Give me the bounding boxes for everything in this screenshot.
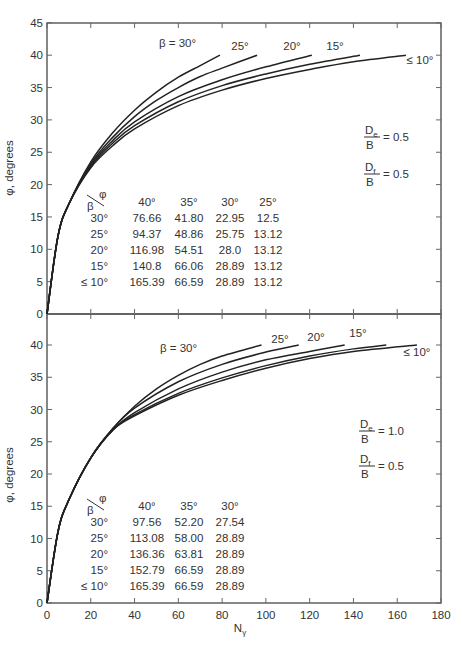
svg-text:= 0.5: = 0.5: [383, 131, 409, 143]
table-cell: 28.0: [219, 244, 241, 256]
curve-1: [47, 345, 299, 603]
y-tick-label: 5: [37, 565, 43, 577]
table-column-header: 35°: [180, 500, 197, 512]
table-cell: 54.51: [175, 244, 204, 256]
table-cell: 63.81: [175, 548, 204, 560]
table-cell: 52.20: [175, 516, 204, 528]
x-tick-label: 180: [431, 609, 450, 621]
y-tick-label: 30: [30, 404, 43, 416]
y-axis-label-bottom: φ, degrees: [3, 447, 15, 503]
x-tick-label: 40: [128, 609, 141, 621]
y-axis-label-top: φ, degrees: [3, 140, 15, 196]
table-column-header: 35°: [180, 196, 197, 208]
table-cell: 165.39: [129, 580, 164, 592]
curve-label: β = 30°: [160, 342, 197, 354]
y-tick-label: 40: [30, 339, 43, 351]
y-tick-label: 25: [30, 436, 43, 448]
table-row-beta: 20°: [91, 548, 108, 560]
y-tick-label: 30: [30, 114, 43, 126]
x-tick-label: 80: [216, 609, 229, 621]
table-cell: 12.5: [257, 212, 279, 224]
table-cell: 94.37: [133, 228, 162, 240]
x-tick-label: 0: [44, 609, 50, 621]
y-tick-label: 35: [30, 82, 43, 94]
table-row-beta: ≤ 10°: [81, 276, 108, 288]
svg-text:= 1.0: = 1.0: [378, 425, 404, 437]
table-cell: 165.39: [129, 276, 164, 288]
y-tick-label: 10: [30, 533, 43, 545]
curve-label: 25°: [271, 333, 288, 345]
y-tick-label: 45: [30, 17, 43, 29]
svg-text:= 0.5: = 0.5: [378, 460, 404, 472]
table-cell: 27.54: [216, 516, 245, 528]
table-cell: 13.12: [254, 260, 283, 272]
svg-text:B: B: [366, 176, 374, 188]
table-cell: 66.06: [175, 260, 204, 272]
table-cell: 66.59: [175, 580, 204, 592]
table-column-header: 40°: [138, 196, 155, 208]
table-column-header: 25°: [259, 196, 276, 208]
curve-label: β = 30°: [159, 37, 196, 49]
table-column-header: 30°: [221, 500, 238, 512]
curve-label: ≤ 10°: [407, 54, 434, 66]
table-cell: 28.89: [216, 564, 245, 576]
y-tick-label: 15: [30, 211, 43, 223]
table-row-beta: 25°: [91, 532, 108, 544]
curve-label: 15°: [349, 327, 366, 339]
curve-label: 15°: [326, 40, 343, 52]
x-axis-label: Nγ: [234, 622, 246, 637]
table-row-beta: 20°: [91, 244, 108, 256]
table-cell: 13.12: [254, 228, 283, 240]
curve-labels: β = 30°25°20°15°≤ 10°β = 30°25°20°15°≤ 1…: [159, 37, 433, 358]
x-tick-label: 120: [300, 609, 319, 621]
ratio-annotations: DeB= 0.5DfB= 0.5DeB= 1.0DfB= 0.5: [359, 124, 409, 480]
table-cell: 116.98: [130, 244, 164, 256]
table-cell: 140.8: [133, 260, 162, 272]
table-row-beta: 15°: [91, 260, 108, 272]
curve-label: 20°: [307, 331, 324, 343]
y-tick-label: 35: [30, 371, 43, 383]
svg-text:B: B: [361, 433, 369, 445]
table-row-beta: 15°: [91, 564, 108, 576]
svg-text:B: B: [366, 139, 374, 151]
ratio-top_df: DfB= 0.5: [364, 161, 409, 188]
table-cell: 28.89: [216, 260, 245, 272]
table-cell: 28.89: [216, 532, 245, 544]
table-cell: 136.36: [129, 548, 164, 560]
x-tick-label: 160: [388, 609, 407, 621]
y-tick-label: 15: [30, 500, 43, 512]
y-tick-label: 40: [30, 49, 43, 61]
svg-text:B: B: [361, 468, 369, 480]
table-cell: 66.59: [175, 564, 204, 576]
curve-label: 25°: [231, 40, 248, 52]
table-cell: 41.80: [175, 212, 204, 224]
table-row-beta: 30°: [91, 212, 108, 224]
curve-label: 20°: [283, 40, 300, 52]
y-tick-label: 25: [30, 146, 43, 158]
x-tick-label: 60: [172, 609, 185, 621]
table-cell: 113.08: [130, 532, 164, 544]
y-tick-label: 0: [37, 597, 43, 609]
bearing-capacity-chart: 0510152025303540450510152025303540020406…: [0, 0, 462, 647]
table-cell: 13.12: [254, 244, 283, 256]
x-tick-label: 100: [256, 609, 275, 621]
ratio-bot_de: DeB= 1.0: [359, 418, 404, 445]
table-cell: 58.00: [175, 532, 204, 544]
y-tick-label: 10: [30, 243, 43, 255]
x-tick-label: 20: [84, 609, 97, 621]
table-corner-top: φ: [99, 188, 106, 200]
table-row-beta: ≤ 10°: [81, 580, 108, 592]
table-cell: 28.89: [216, 580, 245, 592]
ratio-bot_df: DfB= 0.5: [359, 453, 404, 480]
y-tick-label: 20: [30, 468, 43, 480]
table-corner-bottom: β: [87, 504, 94, 516]
table-column-header: 40°: [138, 500, 155, 512]
x-tick-label: 140: [344, 609, 363, 621]
table-cell: 76.66: [133, 212, 162, 224]
svg-text:= 0.5: = 0.5: [383, 168, 409, 180]
table-cell: 152.79: [129, 564, 164, 576]
table-row-beta: 30°: [91, 516, 108, 528]
ratio-top_de: DeB= 0.5: [364, 124, 409, 151]
table-cell: 28.89: [216, 548, 245, 560]
table-cell: 13.12: [254, 276, 283, 288]
